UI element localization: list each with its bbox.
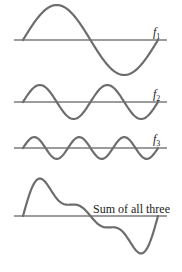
panel-f3: f3	[14, 132, 167, 159]
panel-f1: f1	[14, 5, 167, 75]
label-f2: f2	[153, 87, 160, 103]
label-f1: f1	[153, 25, 160, 41]
label-f3: f3	[153, 132, 160, 148]
panel-f2: f2	[14, 85, 167, 119]
label-sum: Sum of all three	[93, 202, 170, 216]
panel-sum: Sum of all three	[14, 179, 170, 254]
harmonics-figure: f1 f2 f3 Sum of all three	[0, 0, 182, 272]
